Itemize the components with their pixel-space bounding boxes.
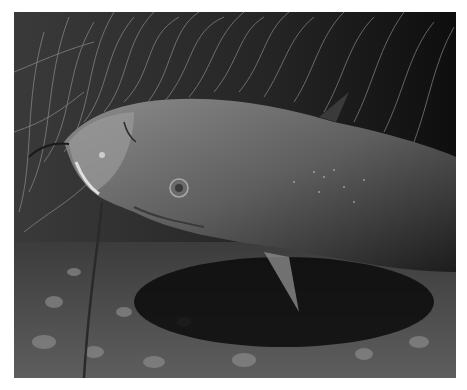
catfish-photo bbox=[14, 12, 456, 378]
nostril bbox=[99, 152, 105, 158]
catfish-illustration bbox=[14, 12, 456, 378]
